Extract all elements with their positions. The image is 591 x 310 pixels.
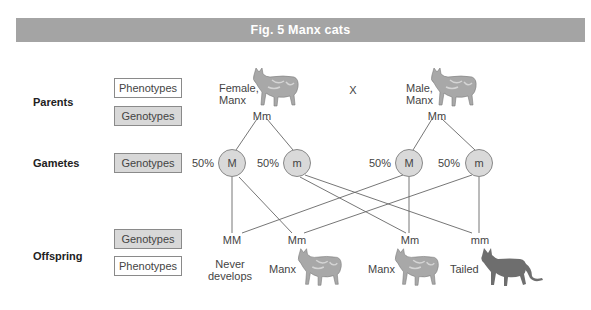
phenotype-line: develops (208, 270, 252, 282)
gamete-circle: m (283, 149, 311, 177)
offspring-phenotype: Manx (269, 263, 296, 275)
gamete-percent: 50% (257, 157, 279, 169)
manx-cat-icon (392, 245, 442, 289)
manx-cat-icon (428, 65, 480, 109)
cross-symbol: X (349, 84, 356, 96)
offspring-phenotype: Tailed (450, 263, 479, 275)
row-label-offspring: Offspring (33, 250, 83, 262)
manx-cat-icon (295, 245, 345, 289)
gametes-genotypes-box: Genotypes (114, 153, 182, 173)
parents-genotypes-box: Genotypes (114, 106, 182, 126)
gamete-percent: 50% (438, 157, 460, 169)
offspring-phenotype-never-develops: Never develops (208, 258, 252, 282)
gamete-percent: 50% (192, 157, 214, 169)
row-label-parents: Parents (33, 96, 73, 108)
gamete-circle: m (465, 149, 493, 177)
offspring-phenotype: Manx (368, 263, 395, 275)
offspring-phenotypes-box: Phenotypes (114, 256, 182, 276)
offspring-genotype: MM (223, 234, 241, 246)
male-parent-genotype: Mm (428, 110, 446, 122)
gamete-circle: M (395, 149, 423, 177)
gamete-percent: 50% (369, 157, 391, 169)
tailed-cat-icon (478, 246, 546, 290)
row-label-gametes: Gametes (33, 157, 79, 169)
offspring-genotypes-box: Genotypes (114, 229, 182, 249)
manx-cat-icon (250, 65, 302, 109)
offspring-genotype: mm (471, 234, 489, 246)
parents-phenotypes-box: Phenotypes (114, 78, 182, 98)
phenotype-line: Never (208, 258, 252, 270)
gamete-circle: M (218, 149, 246, 177)
female-parent-genotype: Mm (253, 110, 271, 122)
